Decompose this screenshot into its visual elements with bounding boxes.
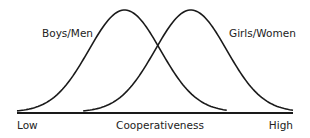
series-label-boys-men: Boys/Men xyxy=(42,27,93,39)
series-label-girls-women: Girls/Women xyxy=(229,27,296,39)
curve-girls-women xyxy=(83,10,293,111)
x-tick-label-low: Low xyxy=(17,119,38,131)
curves-group xyxy=(17,10,293,111)
chart: Boys/Men Girls/Women Low Cooperativeness… xyxy=(0,0,310,138)
x-axis-label: Cooperativeness xyxy=(116,119,204,131)
x-tick-label-high: High xyxy=(269,119,293,131)
